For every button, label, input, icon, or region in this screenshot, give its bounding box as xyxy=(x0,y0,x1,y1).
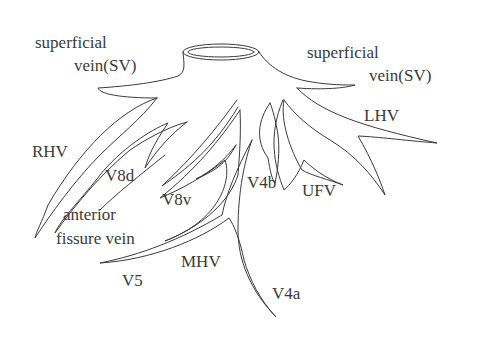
ivc-outer-ring xyxy=(183,44,259,60)
ivc-inner-ring xyxy=(188,47,254,57)
label-left-superficial-vein-line2: vein(SV) xyxy=(74,56,136,76)
label-v8v: V8v xyxy=(162,190,191,210)
label-left-superficial-vein-line1: superficial xyxy=(35,33,107,53)
ufv-branch xyxy=(274,100,343,190)
label-rhv: RHV xyxy=(32,142,68,162)
lhv-branch xyxy=(284,88,437,195)
label-anterior-fissure-vein-line1: anterior xyxy=(63,205,116,225)
label-right-superficial-vein-line2: vein(SV) xyxy=(369,66,431,86)
v4b-branch xyxy=(260,103,279,183)
label-ufv: UFV xyxy=(302,181,336,201)
label-v5: V5 xyxy=(122,271,143,291)
v8v-inner xyxy=(196,145,236,179)
label-lhv: LHV xyxy=(364,106,399,126)
label-mhv: MHV xyxy=(181,252,221,272)
anterior-fissure-vein xyxy=(160,110,240,241)
label-right-superficial-vein-line1: superficial xyxy=(307,43,379,63)
label-v8d: V8d xyxy=(105,166,134,186)
label-v4a: V4a xyxy=(272,284,300,304)
label-v4b: V4b xyxy=(247,173,276,193)
label-anterior-fissure-vein-line2: fissure vein xyxy=(56,229,135,249)
